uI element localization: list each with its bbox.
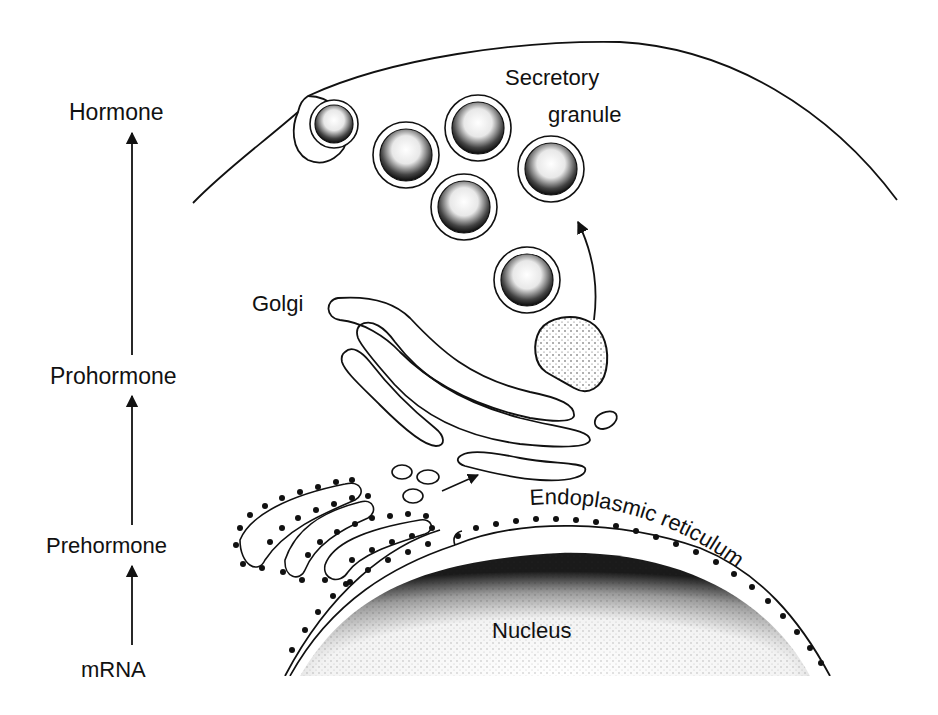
label-prehormone: Prehormone [46,533,167,558]
label-prohormone: Prohormone [50,363,177,389]
arrow-vacuole-to-granule [578,222,595,320]
label-mrna: mRNA [81,657,146,682]
secretory-granule [431,174,497,240]
label-nucleus: Nucleus [492,618,571,643]
transport-vesicles [392,465,439,503]
secretory-granule [373,122,439,188]
label-golgi: Golgi [252,291,303,316]
secretory-granule [518,136,584,202]
condensing-vacuole [535,317,607,391]
secretory-granule [445,95,511,161]
label-secretory-granule-line2: granule [548,102,621,127]
arrow-vesicles-to-golgi [442,475,478,491]
secretory-granule [310,100,358,148]
secretory-granule [494,247,560,313]
label-hormone: Hormone [69,99,164,125]
label-secretory-granule-line1: Secretory [505,65,599,90]
secretory-granules [310,95,584,313]
pathway-column: Hormone Prohormone Prehormone mRNA [46,99,177,682]
secretory-pathway-diagram: Hormone Prohormone Prehormone mRNA [0,0,938,715]
